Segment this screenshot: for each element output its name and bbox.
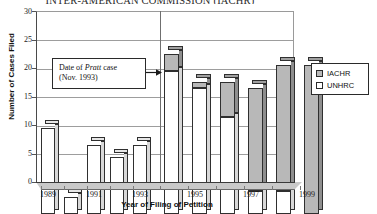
x-tick-mark-1998 <box>272 186 273 190</box>
bar-1994-segment-iachr <box>164 54 179 71</box>
annotation-prefix: Date of <box>59 63 85 72</box>
bar-1996-side-iachr <box>235 78 239 113</box>
chart-title: INTER-AMERICAN COMMISSION (IACHR) <box>0 0 300 4</box>
y-tick-label-15: 15 <box>12 92 32 101</box>
x-tick-label-1997: 1997 <box>234 190 268 199</box>
bar-1994-side-iachr <box>179 50 183 67</box>
x-tick-mark-1996 <box>216 186 217 190</box>
legend-label-unhrc: UNHRC <box>327 81 354 90</box>
legend-label-iachr: IACHR <box>327 69 350 78</box>
annotation-arrow-icon <box>146 69 162 76</box>
bar-1995-top <box>196 74 211 78</box>
x-axis-title: Year of Filing of Petition <box>36 200 298 209</box>
x-axis-line <box>36 182 295 183</box>
y-axis-ticks: 30 25 20 15 10 5 0 <box>8 0 32 214</box>
y-tick-label-30: 30 <box>12 7 32 16</box>
bar-1998-side-iachr <box>291 61 295 187</box>
bar-1998-top <box>280 57 295 61</box>
annotation-line-1: Date of Pratt case <box>59 63 140 73</box>
bar-1996-segment-iachr <box>220 82 235 117</box>
chart-legend: IACHR UNHRC <box>311 63 369 95</box>
chart-figure: INTER-AMERICAN COMMISSION (IACHR) Number… <box>0 0 377 214</box>
y-tick-label-0: 0 <box>12 177 32 186</box>
bar-1997-top <box>252 80 267 84</box>
bar-1995-segment-iachr <box>192 82 207 88</box>
x-tick-label-1995: 1995 <box>178 190 212 199</box>
bar-1994-segment-unhrc <box>164 71 179 214</box>
bar-1996-top <box>224 74 239 78</box>
y-tick-label-20: 20 <box>12 63 32 72</box>
bar-1989-top <box>45 120 59 124</box>
annotation-suffix: case <box>101 63 117 72</box>
annotation-line-2: (Nov. 1993) <box>59 73 140 83</box>
bar-1997-side-iachr <box>263 84 267 187</box>
bar-1999-top <box>308 57 323 61</box>
bar-1992-top <box>114 149 128 153</box>
bar-1991-top <box>91 137 105 141</box>
y-tick-label-10: 10 <box>12 120 32 129</box>
bar-1999[interactable] <box>304 32 319 214</box>
bar-1993-top <box>137 137 151 141</box>
bar-1997-segment-iachr <box>248 88 263 191</box>
bar-1995-side-iachr <box>207 78 211 84</box>
chart-floor <box>36 182 302 190</box>
bar-1994-top <box>168 46 183 50</box>
x-tick-label-1991: 1991 <box>77 190 111 199</box>
x-tick-label-1999: 1999 <box>290 190 324 199</box>
y-tick-label-5: 5 <box>12 149 32 158</box>
legend-swatch-unhrc-icon <box>316 82 323 89</box>
x-tick-mark-1994 <box>160 186 161 190</box>
legend-swatch-iachr-icon <box>316 70 323 77</box>
y-tick-label-25: 25 <box>12 35 32 44</box>
annotation-case-name: Pratt <box>85 63 101 72</box>
pratt-date-reference-line <box>160 11 161 183</box>
x-tick-label-1993: 1993 <box>123 190 157 199</box>
pratt-case-annotation: Date of Pratt case (Nov. 1993) <box>52 58 146 89</box>
legend-item-iachr[interactable]: IACHR <box>316 67 364 79</box>
x-tick-label-1989: 1989 <box>31 190 65 199</box>
bar-1998-segment-iachr <box>276 65 291 191</box>
legend-item-unhrc[interactable]: UNHRC <box>316 79 364 91</box>
